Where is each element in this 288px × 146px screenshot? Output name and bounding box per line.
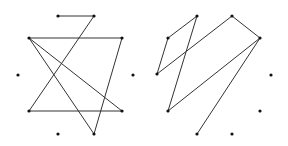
diagram-canvas [0,0,288,146]
node-p8 [258,109,261,112]
node-a [56,14,59,17]
node-p6 [269,73,272,76]
node-j [92,132,95,135]
node-p4 [258,36,261,39]
node-f [131,73,134,76]
node-p2 [230,14,233,17]
graph-diagram [0,0,288,146]
edge-p4-p9 [197,38,260,134]
edge-p1-p7 [168,16,197,111]
node-p5 [155,72,158,75]
edge-p1-p3 [168,16,197,38]
node-p3 [166,36,169,39]
edge-d-j [94,38,122,134]
node-b [92,14,95,17]
node-h [120,109,123,112]
node-p10 [230,132,233,135]
node-p9 [195,132,198,135]
node-d [120,36,123,39]
edge-c-h [29,38,122,111]
edge-p3-p5 [157,38,168,74]
edge-p2-p4 [232,16,260,38]
left-graph [16,14,134,135]
node-i [56,132,59,135]
node-p1 [195,14,198,17]
edge-c-j [29,38,94,134]
node-c [27,36,30,39]
edge-p4-p7 [168,38,260,111]
node-e [16,73,19,76]
node-p7 [166,109,169,112]
node-g [27,109,30,112]
right-graph [155,14,272,135]
